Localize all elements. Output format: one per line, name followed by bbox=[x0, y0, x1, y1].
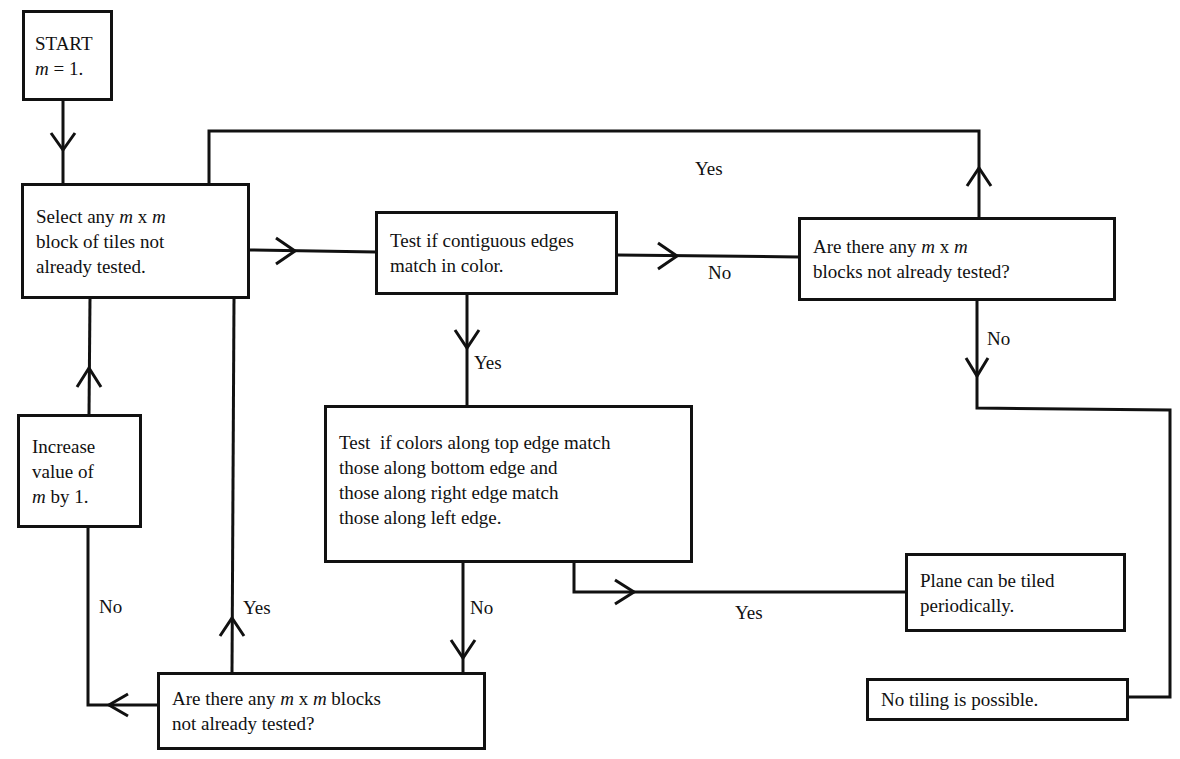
top-blocks-line-1: Are there any m x m bbox=[813, 234, 1101, 259]
edge-periodic-yes bbox=[574, 562, 906, 592]
edge-label-contiguous-no: No bbox=[708, 262, 731, 284]
edge-label-top-loop-yes: Yes bbox=[695, 158, 723, 180]
start-label: START bbox=[35, 31, 100, 56]
periodic-line-1: Test if colors along top edge match bbox=[339, 430, 678, 455]
bottom-blocks-line-2: not already tested? bbox=[172, 711, 471, 736]
edge-label-bottom-blocks-yes: Yes bbox=[243, 597, 271, 619]
edge-label-periodic-yes: Yes bbox=[735, 602, 763, 624]
no-tiling-node: No tiling is possible. bbox=[866, 678, 1129, 721]
no-tiling-text: No tiling is possible. bbox=[881, 687, 1114, 712]
increase-line-3: m by 1. bbox=[32, 484, 127, 509]
edge-label-top-blocks-no: No bbox=[987, 328, 1010, 350]
edge-top-blocks-yes bbox=[209, 131, 979, 218]
select-line-3: already tested. bbox=[36, 254, 235, 279]
any-blocks-bottom-node: Are there any m x m blocks not already t… bbox=[157, 672, 486, 750]
select-block-node: Select any m x m block of tiles not alre… bbox=[21, 183, 250, 299]
contiguous-line-1: Test if contiguous edges bbox=[390, 228, 603, 253]
select-line-2: block of tiles not bbox=[36, 229, 235, 254]
edge-top-blocks-no bbox=[977, 300, 1170, 697]
edge-label-periodic-no: No bbox=[470, 597, 493, 619]
plane-line-2: periodically. bbox=[920, 593, 1111, 618]
increase-m-node: Increase value of m by 1. bbox=[17, 414, 142, 528]
plane-line-1: Plane can be tiled bbox=[920, 568, 1111, 593]
start-init: m = 1. bbox=[35, 56, 100, 81]
test-periodic-node: Test if colors along top edge match thos… bbox=[324, 405, 693, 563]
periodic-line-4: those along left edge. bbox=[339, 505, 678, 530]
increase-line-1: Increase bbox=[32, 434, 127, 459]
periodic-line-2: those along bottom edge and bbox=[339, 455, 678, 480]
start-node: START m = 1. bbox=[22, 10, 113, 101]
select-line-1: Select any m x m bbox=[36, 204, 235, 229]
edge-contiguous-no bbox=[617, 255, 799, 257]
edge-label-bottom-blocks-no: No bbox=[99, 596, 122, 618]
top-blocks-line-2: blocks not already tested? bbox=[813, 259, 1101, 284]
connector-lines bbox=[0, 0, 1180, 759]
contiguous-line-2: match in color. bbox=[390, 253, 603, 278]
increase-line-2: value of bbox=[32, 459, 127, 484]
bottom-blocks-line-1: Are there any m x m blocks bbox=[172, 686, 471, 711]
plane-tiled-node: Plane can be tiled periodically. bbox=[905, 553, 1126, 632]
edge-select-to-contiguous bbox=[249, 250, 376, 252]
edge-increase-to-select bbox=[89, 298, 90, 414]
periodic-line-3: those along right edge match bbox=[339, 480, 678, 505]
test-contiguous-node: Test if contiguous edges match in color. bbox=[375, 211, 618, 295]
any-blocks-top-node: Are there any m x m blocks not already t… bbox=[798, 217, 1116, 301]
edge-label-contiguous-yes: Yes bbox=[474, 352, 502, 374]
